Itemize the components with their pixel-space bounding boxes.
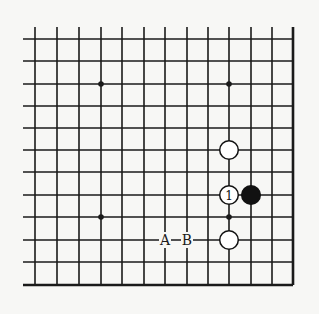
star-point [226,81,232,87]
go-board-diagram: AB1 [0,0,319,314]
point-label-b: B [182,232,192,248]
white-stone [220,231,239,250]
star-point [98,81,104,87]
move-number: 1 [225,189,233,203]
black-stone [242,186,261,205]
white-stone [220,141,239,160]
point-label-a: A [159,232,171,248]
star-point [98,214,104,220]
star-point [226,214,232,220]
